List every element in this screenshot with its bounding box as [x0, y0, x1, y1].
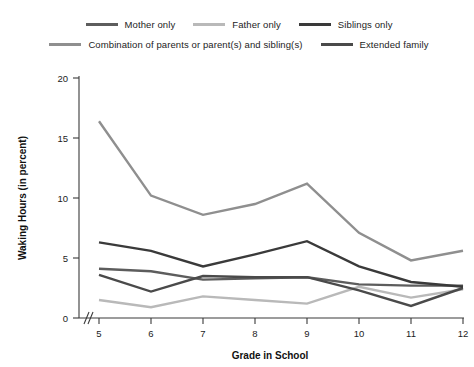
- legend-row-2: Combination of parents or parent(s) and …: [0, 34, 474, 54]
- x-tick-label-7: 7: [200, 328, 205, 339]
- y-tick-label-15: 15: [57, 133, 68, 144]
- chart-legend: Mother only Father only Siblings only Co…: [0, 14, 474, 54]
- x-tick-label-5: 5: [96, 328, 101, 339]
- series-group: [99, 121, 463, 307]
- legend-item-combination[interactable]: Combination of parents or parent(s) and …: [49, 39, 302, 50]
- legend-swatch-mother-only: [86, 23, 118, 26]
- legend-label-father-only: Father only: [232, 19, 281, 30]
- x-tick-label-10: 10: [354, 328, 365, 339]
- x-tick-label-8: 8: [252, 328, 257, 339]
- legend-item-father-only[interactable]: Father only: [193, 19, 281, 30]
- series-line-combination-of-parents-or-parents-and-siblings: [99, 121, 463, 260]
- x-axis-title: Grade in School: [232, 350, 309, 361]
- y-tick-label-10: 10: [57, 193, 68, 204]
- series-line-siblings-only: [99, 241, 463, 287]
- x-axis-ticks: 5 6 7 8 9 10 11 12: [96, 318, 468, 339]
- y-axis-title: Waking Hours (in percent): [17, 136, 28, 260]
- plot-area: 20 15 10 5 0 5 6 7 8 9 10: [0, 62, 474, 367]
- y-tick-label-20: 20: [57, 73, 68, 84]
- legend-item-mother-only[interactable]: Mother only: [86, 19, 176, 30]
- legend-swatch-extended-family: [321, 43, 353, 46]
- x-tick-label-12: 12: [458, 328, 469, 339]
- x-tick-label-6: 6: [148, 328, 153, 339]
- y-tick-label-0: 0: [63, 313, 68, 324]
- legend-label-extended-family: Extended family: [360, 39, 429, 50]
- chart-container: Mother only Father only Siblings only Co…: [0, 0, 474, 367]
- legend-swatch-siblings-only: [299, 23, 331, 26]
- legend-label-siblings-only: Siblings only: [338, 19, 393, 30]
- y-tick-label-5: 5: [63, 253, 68, 264]
- legend-label-combination: Combination of parents or parent(s) and …: [88, 39, 302, 50]
- x-tick-label-9: 9: [304, 328, 309, 339]
- y-axis-ticks: 20 15 10 5 0: [57, 73, 79, 324]
- line-chart-svg: 20 15 10 5 0 5 6 7 8 9 10: [0, 62, 474, 367]
- legend-label-mother-only: Mother only: [125, 19, 176, 30]
- legend-swatch-father-only: [193, 23, 225, 26]
- legend-item-extended-family[interactable]: Extended family: [321, 39, 429, 50]
- legend-item-siblings-only[interactable]: Siblings only: [299, 19, 393, 30]
- x-tick-label-11: 11: [406, 328, 416, 339]
- legend-swatch-combination: [49, 43, 81, 46]
- legend-row-1: Mother only Father only Siblings only: [0, 14, 474, 34]
